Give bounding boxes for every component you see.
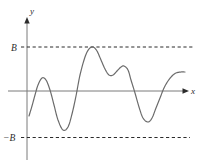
lower-bound-label: −B xyxy=(3,133,15,143)
x-axis-arrow-icon xyxy=(183,88,190,93)
x-axis-label: x xyxy=(190,86,195,96)
upper-bound-label: B xyxy=(11,43,17,53)
y-axis-label: y xyxy=(29,6,34,16)
graph-canvas: B −B y x xyxy=(0,0,201,165)
y-axis xyxy=(24,17,29,160)
bounded-function-graph: B −B y x xyxy=(0,0,201,165)
y-axis-arrow-icon xyxy=(24,17,29,24)
function-curve xyxy=(29,47,185,130)
